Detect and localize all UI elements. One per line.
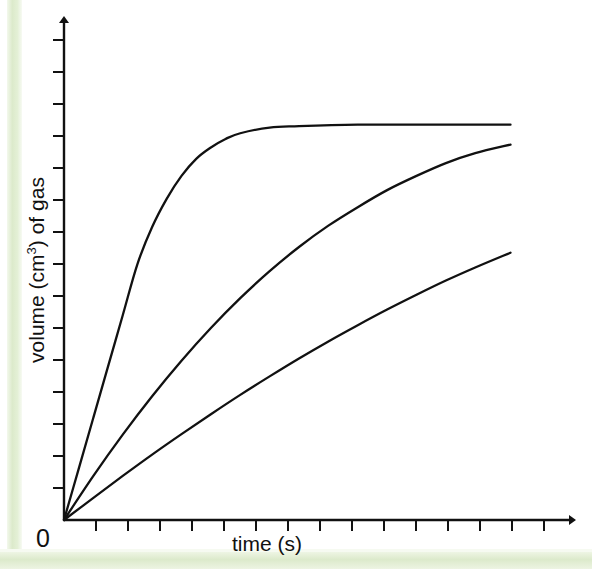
origin-label: 0 bbox=[36, 524, 50, 553]
plot-area bbox=[0, 0, 592, 569]
curve-medium-reaction bbox=[64, 145, 511, 520]
y-axis-label-prefix: volume (cm bbox=[25, 254, 48, 363]
x-axis-ticks bbox=[96, 520, 544, 531]
y-axis-label-suffix: ) of gas bbox=[25, 177, 48, 247]
y-axis-ticks bbox=[53, 40, 64, 488]
chart-figure: 0 time (s) volume (cm3) of gas bbox=[0, 0, 592, 569]
curve-fastest-reaction bbox=[64, 125, 511, 520]
y-axis-label-exponent: 3 bbox=[24, 247, 39, 254]
y-axis-label: volume (cm3) of gas bbox=[25, 177, 49, 363]
curve-slowest-reaction bbox=[64, 253, 511, 520]
x-axis-label: time (s) bbox=[232, 532, 302, 556]
